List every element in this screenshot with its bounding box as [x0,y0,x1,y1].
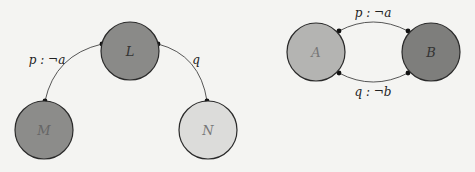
edge-A-B-top [339,22,408,31]
edge-label-L-N: q [192,53,200,67]
edge-A-B-bottom [339,73,408,82]
node-label-A: A [310,45,320,60]
left-diagram: L M N p : ¬a q [15,22,237,159]
edge-label-A-B-bottom: q : ¬b [354,85,391,99]
node-label-N: N [201,123,214,138]
diagram-canvas: L M N p : ¬a q A B p : ¬a q : ¬b [0,0,475,172]
node-label-B: B [425,45,436,60]
node-label-L: L [125,44,135,59]
right-diagram: A B p : ¬a q : ¬b [287,6,460,99]
node-label-M: M [36,123,51,138]
diagram-svg: L M N p : ¬a q A B p : ¬a q : ¬b [0,0,475,172]
edge-label-A-B-top: p : ¬a [355,6,392,20]
edge-label-L-M: p : ¬a [29,53,66,67]
